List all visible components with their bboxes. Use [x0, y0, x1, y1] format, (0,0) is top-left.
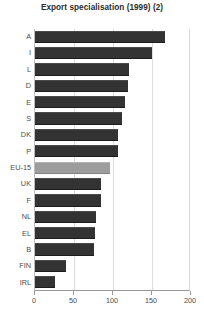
bar-row	[35, 160, 189, 176]
bar-uk	[35, 178, 101, 190]
plot-area	[34, 29, 190, 291]
y-axis-label-e: E	[26, 95, 31, 111]
x-axis-tick	[151, 291, 152, 295]
y-axis-label-dk: DK	[21, 127, 31, 143]
bar-row	[35, 275, 189, 291]
y-axis-label-d: D	[26, 78, 31, 94]
bar-row	[35, 209, 189, 225]
bar-row	[35, 258, 189, 274]
bar-row	[35, 78, 189, 94]
bar-el	[35, 227, 95, 239]
bars-layer	[35, 29, 189, 290]
bar-row	[35, 111, 189, 127]
bar-f	[35, 194, 101, 206]
bar-e	[35, 96, 125, 108]
bar-irl	[35, 276, 55, 288]
bar-row	[35, 242, 189, 258]
x-axis-tick-label-100: 100	[106, 296, 118, 305]
x-axis-tick	[34, 291, 35, 295]
x-axis-tick-label-200: 200	[184, 296, 196, 305]
bar-row	[35, 95, 189, 111]
y-axis-label-nl: NL	[22, 209, 31, 225]
y-axis-label-p: P	[26, 144, 31, 160]
bar-row	[35, 62, 189, 78]
y-axis-category-labels: AILDESDKPEU-15UKFNLELBFINIRL	[0, 29, 31, 291]
y-axis-label-f: F	[27, 193, 31, 209]
bar-d	[35, 80, 128, 92]
bar-row	[35, 144, 189, 160]
x-axis-tick	[73, 291, 74, 295]
y-axis-label-eu-15: EU-15	[10, 160, 31, 176]
x-axis: 050100150200	[34, 291, 190, 315]
bar-b	[35, 243, 94, 255]
bar-nl	[35, 211, 96, 223]
y-axis-label-fin: FIN	[19, 258, 31, 274]
chart-title: Export specialisation (1999) (2)	[0, 3, 204, 12]
y-axis-label-i: I	[29, 45, 31, 61]
bar-l	[35, 63, 129, 75]
chart-container: Export specialisation (1999) (2) AILDESD…	[0, 0, 204, 319]
bar-a	[35, 31, 165, 43]
x-axis-tick	[112, 291, 113, 295]
x-axis-tick	[190, 291, 191, 295]
x-axis-tick-label-150: 150	[145, 296, 157, 305]
bar-s	[35, 112, 122, 124]
y-axis-label-s: S	[26, 111, 31, 127]
y-axis-label-uk: UK	[21, 176, 31, 192]
x-axis-tick-label-0: 0	[32, 296, 36, 305]
bar-row	[35, 127, 189, 143]
bar-dk	[35, 129, 118, 141]
bar-eu-15	[35, 162, 110, 174]
y-axis-label-l: L	[27, 62, 31, 78]
bar-row	[35, 193, 189, 209]
bar-p	[35, 145, 118, 157]
bar-i	[35, 47, 152, 59]
x-axis-tick-label-50: 50	[69, 296, 77, 305]
y-axis-label-irl: IRL	[20, 275, 31, 291]
bar-fin	[35, 260, 66, 272]
bar-row	[35, 176, 189, 192]
bar-row	[35, 45, 189, 61]
bar-row	[35, 29, 189, 45]
y-axis-label-b: B	[26, 242, 31, 258]
bar-row	[35, 226, 189, 242]
y-axis-label-el: EL	[22, 226, 31, 242]
y-axis-label-a: A	[26, 29, 31, 45]
